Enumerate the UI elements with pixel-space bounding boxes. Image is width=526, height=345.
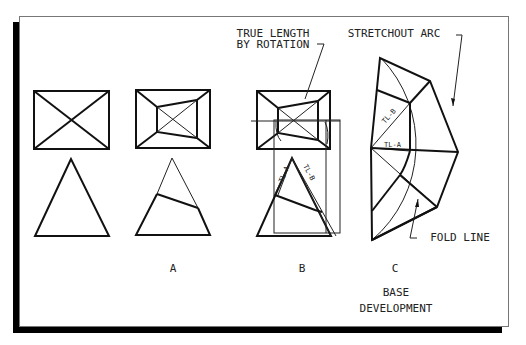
label-a: A <box>170 262 177 275</box>
label-tl-a-c: TL-A <box>384 141 402 149</box>
label-base: BASE <box>383 286 410 299</box>
frame-shadow-bottom <box>13 326 502 333</box>
label-stretchout-arc: STRETCHOUT ARC <box>348 27 441 40</box>
label-fold-line: FOLD LINE <box>430 231 490 244</box>
drawing-frame <box>20 17 509 327</box>
frame-shadow-left <box>13 22 20 333</box>
label-c: C <box>392 262 399 275</box>
label-b: B <box>299 262 306 275</box>
label-development: DEVELOPMENT <box>360 302 433 315</box>
technical-drawing: A TL-A TL-B B TRUE LENGTH BY ROTATION <box>0 0 526 345</box>
drawing-sheet: A TL-A TL-B B TRUE LENGTH BY ROTATION <box>0 0 526 345</box>
label-true-length-2: BY ROTATION <box>237 38 310 51</box>
